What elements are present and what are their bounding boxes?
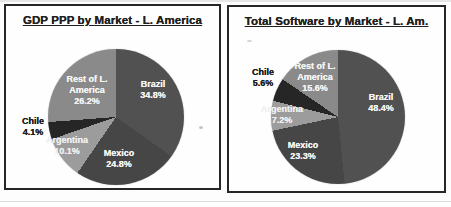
pie-chart-gdp-ppp xyxy=(48,49,184,185)
chart-title-total-software: Total Software by Market - L. Am. xyxy=(233,15,440,27)
scan-artifact-bottom-line xyxy=(0,201,451,202)
scan-speck xyxy=(199,126,203,129)
chart-panel-gdp-ppp: GDP PPP by Market - L. America Brazil 34… xyxy=(4,4,221,190)
pie-chart-total-software xyxy=(271,50,405,184)
scan-speck xyxy=(247,40,252,42)
pie-slice-label-chile: Chile 4.1% xyxy=(22,116,44,138)
scan-artifact-top xyxy=(0,0,451,2)
scanned-slide: GDP PPP by Market - L. America Brazil 34… xyxy=(0,0,451,207)
pie-slice-label-chile: Chile 5.6% xyxy=(252,67,274,89)
chart-title-gdp-ppp: GDP PPP by Market - L. America xyxy=(10,14,215,26)
chart-panel-total-software: Total Software by Market - L. Am. Brazil… xyxy=(227,5,446,193)
